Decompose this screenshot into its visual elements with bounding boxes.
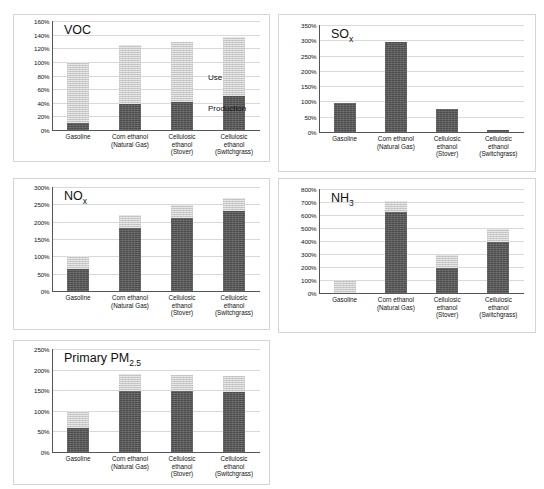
category-label-line: Cellulosic — [422, 135, 473, 143]
x-axis-line — [319, 132, 524, 133]
bar-segment-production — [119, 391, 141, 452]
x-axis-line — [52, 130, 260, 131]
y-axis-tick-label: 150% — [34, 236, 52, 243]
y-axis-tick-label: 600% — [301, 212, 319, 219]
bar-segment-production — [67, 123, 89, 130]
x-axis-category-label: Cellulosicethanol(Stover) — [422, 296, 473, 319]
chart-title-text: SO — [331, 27, 349, 41]
y-axis-tick-label: 300% — [34, 184, 52, 191]
gridline — [319, 71, 524, 72]
category-label-line: Gasoline — [52, 294, 104, 302]
category-label-line: Corn ethanol — [370, 296, 421, 304]
y-axis-tick-label: 140% — [34, 31, 52, 38]
bar-segment-use — [171, 205, 193, 217]
figure-panel-grid: 0%20%40%60%80%100%120%140%160%GasolineCo… — [0, 0, 544, 489]
y-axis-tick-label: 20% — [37, 113, 52, 120]
category-label-line: (Natural Gas) — [104, 302, 156, 310]
bar-sox-3 — [487, 130, 509, 132]
bar-pm25-2 — [171, 375, 193, 452]
category-label-line: ethanol — [422, 304, 473, 312]
y-axis-line — [52, 21, 53, 130]
bar-nh3-2 — [436, 255, 458, 293]
chart-panel-nh3: 0%100%200%300%400%500%600%700%800%Gasoli… — [278, 178, 536, 333]
y-axis-tick-label: 40% — [37, 99, 52, 106]
x-axis-category-label: Cellulosicethanol(Switchgrass) — [208, 455, 260, 478]
gridline — [319, 189, 524, 190]
bar-segment-use — [119, 374, 141, 391]
chart-title-subscript: 2.5 — [129, 358, 141, 368]
category-label-line: (Switchgrass) — [473, 311, 524, 319]
x-axis-category-label: Cellulosicethanol(Switchgrass) — [208, 133, 260, 156]
y-axis-tick-label: 350% — [301, 22, 319, 29]
category-label-line: Corn ethanol — [370, 135, 421, 143]
x-axis-category-label: Cellulosicethanol(Switchgrass) — [473, 296, 524, 319]
y-axis-tick-label: 200% — [301, 264, 319, 271]
bar-segment-use — [119, 45, 141, 104]
y-axis-tick-label: 250% — [34, 201, 52, 208]
category-label-line: (Stover) — [422, 311, 473, 319]
y-axis-tick-label: 250% — [301, 52, 319, 59]
category-label-line: (Stover) — [156, 309, 208, 317]
y-axis-tick-label: 200% — [301, 67, 319, 74]
x-axis-category-label: Gasoline — [52, 133, 104, 141]
x-axis-category-label: Corn ethanol(Natural Gas) — [104, 455, 156, 470]
y-axis-tick-label: 120% — [34, 45, 52, 52]
bar-nox-1 — [119, 215, 141, 291]
category-label-line: Cellulosic — [208, 294, 260, 302]
bar-sox-2 — [436, 109, 458, 132]
y-axis-tick-label: 0% — [41, 127, 52, 134]
y-axis-tick-label: 800% — [301, 186, 319, 193]
x-axis-category-label: Cellulosicethanol(Stover) — [156, 294, 208, 317]
bar-voc-0 — [67, 62, 89, 130]
chart-title-subscript: x — [349, 34, 353, 44]
x-axis-category-label: Cellulosicethanol(Switchgrass) — [208, 294, 260, 317]
gridline — [52, 187, 260, 188]
bar-segment-use — [223, 376, 245, 392]
category-label-line: ethanol — [208, 141, 260, 149]
category-label-line: ethanol — [473, 304, 524, 312]
chart-title-nh3: NH3 — [331, 191, 354, 208]
chart-title-sox: SOx — [331, 27, 353, 44]
category-label-line: (Stover) — [422, 150, 473, 158]
bar-segment-production — [223, 211, 245, 291]
x-axis-category-label: Cellulosicethanol(Stover) — [422, 135, 473, 158]
bar-voc-3 — [223, 37, 245, 130]
gridline — [319, 56, 524, 57]
y-axis-tick-label: 250% — [34, 346, 52, 353]
category-label-line: Cellulosic — [422, 296, 473, 304]
y-axis-tick-label: 100% — [34, 253, 52, 260]
y-axis-tick-label: 700% — [301, 199, 319, 206]
category-label-line: (Natural Gas) — [104, 141, 156, 149]
gridline — [319, 25, 524, 26]
bar-voc-1 — [119, 45, 141, 130]
y-axis-tick-label: 300% — [301, 251, 319, 258]
y-axis-tick-label: 300% — [301, 37, 319, 44]
category-label-line: Cellulosic — [473, 296, 524, 304]
category-label-line: (Natural Gas) — [370, 304, 421, 312]
bar-segment-production — [487, 130, 509, 132]
gridline — [52, 370, 260, 371]
category-label-line: ethanol — [156, 463, 208, 471]
y-axis-tick-label: 150% — [34, 387, 52, 394]
category-label-line: (Switchgrass) — [208, 148, 260, 156]
category-label-line: Corn ethanol — [104, 455, 156, 463]
y-axis-tick-label: 0% — [41, 449, 52, 456]
gridline — [52, 349, 260, 350]
x-axis-line — [319, 293, 524, 294]
y-axis-line — [52, 187, 53, 291]
y-axis-tick-label: 200% — [34, 366, 52, 373]
y-axis-tick-label: 500% — [301, 225, 319, 232]
category-label-line: ethanol — [156, 141, 208, 149]
y-axis-tick-label: 50% — [37, 270, 52, 277]
category-label-line: ethanol — [208, 302, 260, 310]
bar-nh3-3 — [487, 229, 509, 293]
x-axis-category-label: Corn ethanol(Natural Gas) — [370, 135, 421, 150]
x-axis-category-label: Gasoline — [52, 294, 104, 302]
bar-segment-use — [119, 215, 141, 229]
bar-segment-production — [119, 104, 141, 130]
y-axis-tick-label: 0% — [308, 290, 319, 297]
bar-pm25-1 — [119, 374, 141, 452]
bar-segment-use — [171, 42, 193, 102]
bar-segment-production — [171, 102, 193, 130]
bar-nh3-1 — [385, 201, 407, 293]
